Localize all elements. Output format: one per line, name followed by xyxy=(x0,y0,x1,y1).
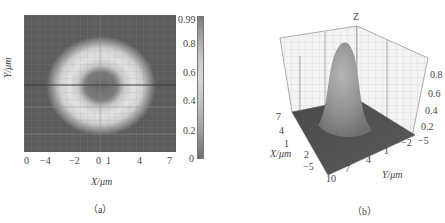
x-tick: −5 xyxy=(303,161,314,172)
x-axis-label: X/μm xyxy=(270,148,291,159)
caption-a: （a） xyxy=(88,201,112,216)
colorbar-tick: 0.8 xyxy=(183,39,196,49)
x-axis-label: X/μm xyxy=(91,176,112,187)
colorbar-tick: 0.6 xyxy=(183,68,196,78)
y-tick: −5 xyxy=(418,135,429,146)
z-tick: 0.6 xyxy=(428,88,441,99)
y-axis-label: Y/μm xyxy=(382,169,403,180)
x-tick: −2 xyxy=(69,156,80,166)
x-tick: 1 xyxy=(106,156,111,166)
colorbar-tick: 0.4 xyxy=(183,96,196,106)
heatmap-image xyxy=(24,15,176,152)
z-tick: 0.4 xyxy=(425,105,438,116)
x-tick: 7 xyxy=(167,156,172,166)
colorbar-tick: 0.99 xyxy=(178,15,196,25)
colorbar-tick: 0.2 xyxy=(183,126,196,136)
y-axis-label: Y/μm xyxy=(2,57,13,78)
surface-plot: Z 0.8 0.6 0.4 0.2 7 4 1 2 −5 X/μm 10 7 4… xyxy=(270,0,445,223)
y-tick: −2 xyxy=(401,137,412,148)
z-tick: 0.2 xyxy=(421,121,434,132)
y-tick: 7 xyxy=(345,163,350,174)
z-tick: 0.8 xyxy=(430,69,443,80)
y-tick: 4 xyxy=(366,154,371,165)
x-tick: 4 xyxy=(279,125,284,136)
heatmap-plot-area xyxy=(24,15,176,152)
colorbar xyxy=(197,16,204,159)
y-tick: 1 xyxy=(384,145,389,156)
x-tick: 7 xyxy=(276,111,281,122)
x-tick: 0 xyxy=(24,156,29,166)
y-tick: 10 xyxy=(326,173,336,184)
z-axis-label: Z xyxy=(353,11,359,22)
colorbar-tick: 0 xyxy=(189,154,194,164)
x-tick: −4 xyxy=(40,156,51,166)
x-tick: 2 xyxy=(304,149,309,160)
x-tick: 4 xyxy=(137,156,142,166)
x-tick: 0 xyxy=(96,156,101,166)
caption-b: （b） xyxy=(352,203,377,218)
